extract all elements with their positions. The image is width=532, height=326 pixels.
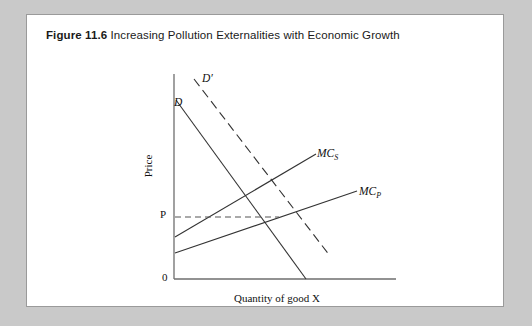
origin-label: 0 [162,271,168,283]
curve-label-demand: D [174,96,182,108]
demand-curve-d [176,100,306,279]
mcp-subscript: P [376,191,381,200]
mcs-subscript: S [334,153,338,162]
curve-label-marginal-social-cost: MCS [317,147,338,162]
curve-label-demand-shifted: D′ [202,72,213,84]
economics-chart [27,15,505,308]
price-level-label: P [160,208,166,220]
mcs-prefix: MC [317,147,334,159]
marginal-private-cost-curve [175,191,357,253]
demand-curve-d-prime [194,79,330,256]
figure-panel: Figure 11.6 Increasing Pollution Externa… [26,14,504,307]
marginal-social-cost-curve [175,154,316,237]
curve-label-marginal-private-cost: MCP [359,185,381,200]
x-axis-label: Quantity of good X [234,292,320,304]
y-axis-label: Price [142,155,154,178]
mcp-prefix: MC [359,185,376,197]
